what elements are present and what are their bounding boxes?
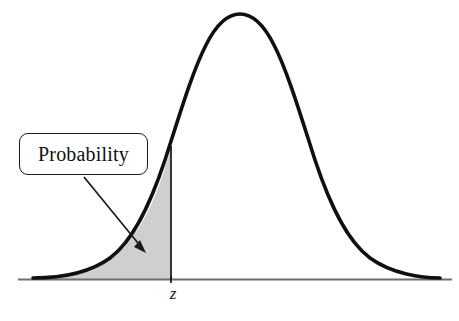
probability-callout-box: Probability [19,133,148,175]
z-axis-tick-label: z [160,284,186,304]
callout-arrow [84,177,146,253]
normal-distribution-figure: Probability z [0,0,459,321]
probability-callout-label: Probability [38,144,129,164]
